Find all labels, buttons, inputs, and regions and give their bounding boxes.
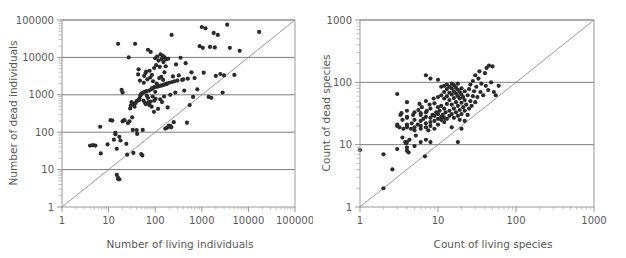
data-point: [141, 128, 145, 132]
data-point: [238, 49, 242, 53]
data-point: [419, 124, 423, 128]
x-tick-label: 100000: [276, 215, 313, 226]
data-point: [131, 128, 135, 132]
data-point: [473, 73, 477, 77]
data-point: [131, 151, 135, 155]
scatter-panel-left: 1101001000100001000001101001000100001000…: [0, 0, 313, 258]
data-point: [218, 72, 222, 76]
data-point: [146, 96, 150, 100]
data-point: [105, 142, 109, 146]
data-point: [184, 61, 188, 65]
data-point: [125, 153, 129, 157]
x-tick-label: 10000: [232, 215, 264, 226]
x-tick-label: 1000: [189, 215, 214, 226]
left-x-axis-title: Number of living individuals: [106, 238, 253, 250]
data-point: [182, 88, 186, 92]
data-point: [487, 64, 491, 68]
x-tick-label: 100: [506, 215, 525, 226]
data-point: [459, 127, 463, 131]
data-point: [445, 102, 449, 106]
right-one-to-one-reference-line: [360, 20, 594, 207]
data-point: [463, 109, 467, 113]
data-point: [423, 154, 427, 158]
data-point: [203, 26, 207, 30]
data-point: [156, 107, 160, 111]
y-tick-label: 1000: [29, 89, 54, 100]
data-point: [177, 73, 181, 77]
data-point: [463, 98, 467, 102]
data-point: [432, 96, 436, 100]
data-point: [133, 42, 137, 46]
data-point: [412, 125, 416, 129]
left-reference-line: [62, 20, 295, 207]
data-point: [459, 112, 463, 116]
data-point: [140, 153, 144, 157]
data-point: [426, 128, 430, 132]
data-point: [454, 100, 458, 104]
data-point: [93, 143, 97, 147]
data-point: [428, 106, 432, 110]
data-point: [168, 93, 172, 97]
data-point: [154, 97, 158, 101]
data-point: [452, 106, 456, 110]
data-point: [405, 145, 409, 149]
data-point: [407, 138, 411, 142]
data-point: [138, 78, 142, 82]
data-point: [459, 86, 463, 90]
data-point: [395, 147, 399, 151]
right-gridlines: [360, 20, 594, 145]
data-point: [118, 138, 122, 142]
data-point: [467, 87, 471, 91]
data-point: [427, 102, 431, 106]
data-point: [436, 78, 440, 82]
data-point: [150, 73, 154, 77]
data-point: [439, 93, 443, 97]
y-tick-label: 1: [48, 202, 54, 213]
data-point: [419, 111, 423, 115]
data-point: [468, 82, 472, 86]
data-point: [99, 151, 103, 155]
data-point: [405, 100, 409, 104]
data-point: [162, 70, 166, 74]
data-point: [412, 110, 416, 114]
data-point: [228, 46, 232, 50]
y-tick-label: 100: [35, 127, 54, 138]
data-point: [214, 74, 218, 78]
data-point: [405, 115, 409, 119]
data-point: [486, 88, 490, 92]
data-point: [178, 56, 182, 60]
data-point: [172, 120, 176, 124]
data-point: [110, 118, 114, 122]
data-point: [443, 110, 447, 114]
data-point: [445, 94, 449, 98]
data-point: [432, 127, 436, 131]
data-point: [475, 95, 479, 99]
data-point: [186, 77, 190, 81]
data-point: [192, 76, 196, 80]
data-point: [152, 110, 156, 114]
data-point: [175, 78, 179, 82]
y-tick-label: 1000: [327, 15, 352, 26]
data-point: [471, 94, 475, 98]
data-point: [142, 81, 146, 85]
data-point: [225, 23, 229, 27]
data-point: [136, 67, 140, 71]
data-point: [456, 140, 460, 144]
data-point: [127, 119, 131, 123]
data-point: [166, 57, 170, 61]
data-point: [428, 140, 432, 144]
data-point: [257, 30, 261, 34]
data-point: [494, 93, 498, 97]
data-point: [424, 73, 428, 77]
data-point: [432, 101, 436, 105]
data-point: [151, 79, 155, 83]
x-tick-label: 10: [102, 215, 115, 226]
figure-root: 1101001000100001000001101001000100001000…: [0, 0, 626, 258]
data-point: [484, 84, 488, 88]
data-point: [468, 99, 472, 103]
data-point: [135, 132, 139, 136]
data-point: [150, 105, 154, 109]
data-point: [222, 73, 226, 77]
data-point: [181, 77, 185, 81]
data-point: [428, 76, 432, 80]
